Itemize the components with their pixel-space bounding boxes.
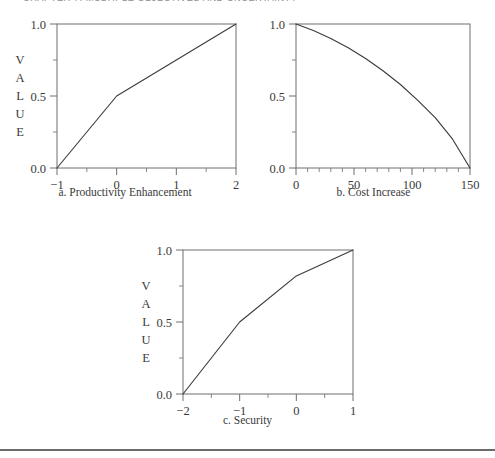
chart-c-y-axis-title: V A L U E bbox=[141, 279, 150, 365]
axis-title-letter: U bbox=[15, 107, 24, 121]
axis-title-letter: V bbox=[15, 53, 24, 67]
y-tick-label: 1.0 bbox=[156, 244, 172, 258]
axis-title-letter: L bbox=[16, 89, 24, 103]
chart-a-y-axis-title: V A L U E bbox=[15, 53, 24, 139]
chart-c-x-ticks bbox=[183, 394, 353, 401]
axis-title-letter: A bbox=[15, 71, 24, 85]
axis-title-letter: U bbox=[141, 333, 150, 347]
axis-title-letter: A bbox=[141, 297, 150, 311]
page-bottom-rule bbox=[0, 449, 495, 451]
chart-a-x-ticks bbox=[57, 168, 236, 175]
axis-title-letter: E bbox=[142, 351, 150, 365]
chart-c-value-curve bbox=[183, 250, 353, 394]
y-tick-label: 0.0 bbox=[30, 162, 46, 176]
chart-a-y-tick-labels: 0.0 0.5 1.0 bbox=[30, 18, 46, 176]
chart-a-y-ticks bbox=[50, 24, 57, 168]
y-tick-label: 0.5 bbox=[269, 90, 285, 104]
chart-a-value-curve bbox=[57, 24, 236, 168]
chart-panel-productivity-enhancement: V A L U E 0.0 0.5 1.0 bbox=[0, 14, 250, 184]
page-running-header: CHAPTER 7. MULTIPLE OBJECTIVES AND UNCER… bbox=[0, 0, 495, 6]
chart-c-caption: c. Security bbox=[126, 414, 369, 426]
axis-title-letter: L bbox=[142, 315, 150, 329]
y-tick-label: 1.0 bbox=[30, 18, 46, 32]
y-tick-label: 0.5 bbox=[30, 90, 46, 104]
chart-b-svg: 0.0 0.5 1.0 0 50 100 bbox=[252, 14, 495, 184]
running-header-text: CHAPTER 7. MULTIPLE OBJECTIVES AND UNCER… bbox=[23, 0, 297, 3]
y-tick-label: 0.0 bbox=[269, 162, 285, 176]
axis-title-letter: E bbox=[16, 125, 24, 139]
chart-b-caption: b. Cost Increase bbox=[252, 186, 495, 198]
chart-a-plot-frame bbox=[57, 24, 236, 168]
axis-title-letter: V bbox=[141, 279, 150, 293]
y-tick-label: 0.0 bbox=[156, 388, 172, 402]
y-tick-label: 0.5 bbox=[156, 316, 172, 330]
chart-c-y-ticks bbox=[176, 250, 183, 394]
chart-a-svg: V A L U E 0.0 0.5 1.0 bbox=[0, 14, 250, 184]
y-tick-label: 1.0 bbox=[269, 18, 285, 32]
chart-b-x-ticks bbox=[296, 168, 470, 175]
chart-b-y-ticks bbox=[289, 24, 296, 168]
chart-c-y-tick-labels: 0.0 0.5 1.0 bbox=[156, 244, 172, 402]
chart-b-plot-frame bbox=[296, 24, 470, 168]
chart-panel-cost-increase: 0.0 0.5 1.0 0 50 100 bbox=[252, 14, 495, 184]
chart-c-svg: V A L U E 0.0 0.5 1.0 bbox=[126, 240, 369, 410]
chart-c-plot-frame bbox=[183, 250, 353, 394]
chart-b-y-tick-labels: 0.0 0.5 1.0 bbox=[269, 18, 285, 176]
chart-b-x-minor-ticks bbox=[308, 168, 459, 172]
chart-b-value-curve bbox=[296, 24, 470, 168]
chart-panel-security: V A L U E 0.0 0.5 1.0 bbox=[126, 240, 369, 410]
chart-a-caption: a. Productivity Enhancement bbox=[0, 186, 250, 198]
